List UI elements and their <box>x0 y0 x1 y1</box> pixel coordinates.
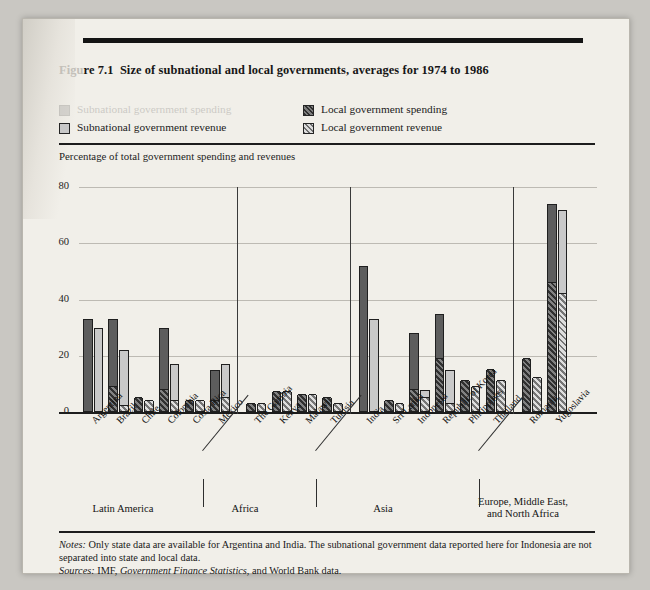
bar-solid-segment <box>360 267 368 411</box>
dark-solid-swatch <box>59 105 70 116</box>
notes-text: Only state data are available for Argent… <box>59 539 592 563</box>
bar-solid-segment <box>370 320 378 411</box>
sources-post: , and World Bank data. <box>247 565 342 576</box>
region-bracket-stem <box>203 479 204 507</box>
bar-spending-india <box>359 266 369 412</box>
y-tick-label-40: 40 <box>29 293 77 304</box>
gridline-20 <box>79 356 597 357</box>
region-label-line1: Asia <box>313 503 453 514</box>
bar-hatched-segment <box>523 358 531 411</box>
region-separator-2 <box>350 187 351 414</box>
sources-line: Sources: IMF, Government Finance Statist… <box>59 564 599 577</box>
region-label-line1: Latin America <box>53 503 193 514</box>
gridline-60 <box>79 243 597 244</box>
region-label-latin-america: Latin America <box>53 503 193 514</box>
legend-label-subnational-spending: Subnational government spending <box>77 103 231 115</box>
light-solid-swatch <box>59 123 70 134</box>
bar-spending-romania <box>522 359 532 412</box>
region-label-asia: Asia <box>313 503 453 514</box>
bar-revenue-india <box>369 319 379 412</box>
bar-solid-segment <box>120 351 128 411</box>
region-bracket-stem <box>479 479 480 507</box>
y-tick-label-0: 0 <box>29 405 77 416</box>
dark-hatched-swatch <box>303 105 314 116</box>
bar-spending-the-gambia <box>246 404 256 412</box>
y-axis-caption: Percentage of total government spending … <box>59 150 295 162</box>
light-hatched-swatch <box>303 123 314 134</box>
x-axis-line <box>59 412 597 414</box>
bar-hatched-segment <box>247 403 255 411</box>
notes-line: Notes: Only state data are available for… <box>59 538 599 564</box>
sources-label: Sources: <box>59 565 95 576</box>
y-tick-label-80: 80 <box>29 180 77 191</box>
notes-label: Notes: <box>59 539 86 550</box>
region-label-europe-middle-east: Europe, Middle East,and North Africa <box>453 496 593 520</box>
region-label-line1: Africa <box>175 503 315 514</box>
sources-pre: IMF, <box>95 565 120 576</box>
figure-number: re 7.1 <box>84 63 114 77</box>
y-tick-label-20: 20 <box>29 349 77 360</box>
figure-title-text: Size of subnational and local government… <box>120 63 489 77</box>
chart-legend: Subnational government spending Subnatio… <box>59 101 589 137</box>
legend-label-local-spending: Local government spending <box>321 103 447 115</box>
y-tick-label-60: 60 <box>29 236 77 247</box>
figure-page: Figure 7.1 Size of subnational and local… <box>0 0 650 590</box>
bar-spending-colombia <box>159 328 169 412</box>
sources-italic-title: Government Finance Statistics <box>120 565 247 576</box>
bar-hatched-segment <box>385 400 393 411</box>
region-separator-3 <box>513 187 514 414</box>
figure-notes: Notes: Only state data are available for… <box>59 538 599 577</box>
gridline-40 <box>79 300 597 301</box>
plot-area: 020406080 <box>79 187 597 412</box>
figure-title: Figure 7.1 Size of subnational and local… <box>59 63 599 78</box>
bar-solid-segment <box>95 329 103 411</box>
bar-revenue-yugoslavia <box>558 210 568 413</box>
region-bracket-stem <box>316 479 317 507</box>
notes-divider-rule <box>59 531 595 533</box>
region-separator-1 <box>237 187 238 414</box>
region-label-africa: Africa <box>175 503 315 514</box>
figure-number-faded: Figu <box>59 63 84 77</box>
bar-revenue-argentina <box>94 328 104 412</box>
region-label-line2: and North Africa <box>453 508 593 520</box>
legend-divider-rule <box>59 143 595 145</box>
legend-label-local-revenue: Local government revenue <box>321 121 442 133</box>
bar-hatched-segment <box>160 389 168 412</box>
region-label-line1: Europe, Middle East, <box>453 496 593 508</box>
bar-solid-segment <box>84 320 92 411</box>
legend-label-subnational-revenue: Subnational government revenue <box>77 121 226 133</box>
scan-artifact-bar <box>83 38 583 43</box>
bar-spending-argentina <box>83 319 93 412</box>
bar-spending-yugoslavia <box>547 204 557 412</box>
bar-hatched-segment <box>559 293 567 411</box>
figure-sheet: Figure 7.1 Size of subnational and local… <box>22 18 630 574</box>
gridline-80 <box>79 187 597 188</box>
